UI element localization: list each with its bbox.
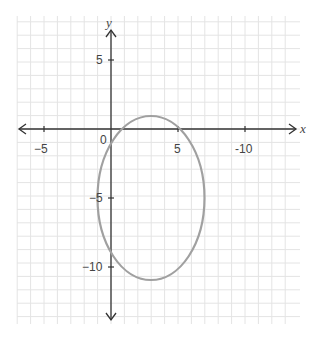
x-tick-5: 5 (174, 142, 181, 156)
y-axis-label: y (104, 15, 112, 30)
grid (17, 16, 300, 324)
x-axis (19, 124, 296, 134)
origin-label: 0 (100, 133, 107, 147)
x-axis-label: x (299, 121, 306, 136)
chart-canvas: x y 0 −5 5 -10 5 −5 −10 (0, 0, 313, 339)
x-tick-neg5: −5 (34, 142, 48, 156)
y-tick-neg5: −5 (89, 191, 103, 205)
y-tick-neg10: −10 (82, 260, 103, 274)
y-tick-5: 5 (96, 53, 103, 67)
x-tick-10: -10 (235, 142, 253, 156)
